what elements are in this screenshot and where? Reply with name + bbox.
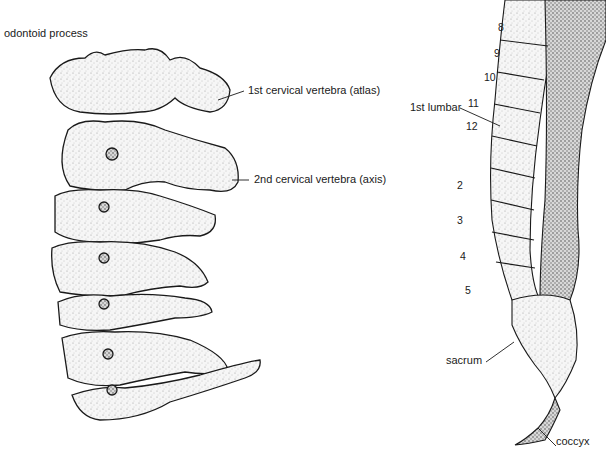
label-sacrum: sacrum <box>446 355 482 366</box>
anatomy-illustration <box>0 0 606 458</box>
label-axis: 2nd cervical vertebra (axis) <box>254 174 386 185</box>
label-l2: 2 <box>457 180 463 191</box>
c4-vertebra <box>52 242 208 296</box>
label-t12: 12 <box>466 121 478 132</box>
axis-vertebra <box>62 121 238 191</box>
label-l5: 5 <box>465 285 471 296</box>
label-t8: 8 <box>498 22 504 33</box>
label-atlas: 1st cervical vertebra (atlas) <box>248 85 380 96</box>
label-coccyx: coccyx <box>556 436 590 447</box>
c5-vertebra <box>58 294 212 330</box>
label-l3: 3 <box>457 215 463 226</box>
coccyx-shape <box>515 398 560 445</box>
c3-vertebra <box>55 190 215 244</box>
label-t9: 9 <box>494 48 500 59</box>
label-l4: 4 <box>460 251 466 262</box>
vertebral-column <box>491 0 606 445</box>
atlas-vertebra <box>50 49 230 114</box>
label-t10: 10 <box>484 72 496 83</box>
cervical-vertebrae <box>50 49 260 420</box>
label-odontoid-process: odontoid process <box>4 28 88 39</box>
label-t11: 11 <box>468 98 479 109</box>
axis-foramen <box>106 148 118 160</box>
label-1st-lumbar: 1st lumbar <box>410 102 461 113</box>
sacrum-shape <box>512 295 577 398</box>
